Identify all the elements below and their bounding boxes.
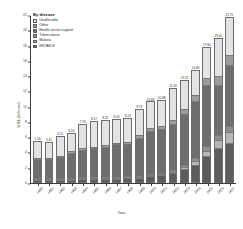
bar-segment[interactable]	[136, 139, 143, 177]
bar-segment[interactable]	[68, 181, 75, 183]
bar-segment[interactable]	[158, 101, 165, 127]
bar-segment[interactable]	[158, 130, 165, 174]
bar-stack[interactable]: 12.40	[169, 88, 178, 183]
bar-segment[interactable]	[181, 170, 188, 182]
bar-stack[interactable]: 13.52	[180, 80, 189, 183]
bar-segment[interactable]	[147, 132, 154, 175]
bar-stack[interactable]: 14.80	[191, 70, 200, 183]
bar-segment[interactable]	[192, 71, 199, 96]
legend-item[interactable]: Malaria	[33, 39, 111, 44]
bar-segment[interactable]	[192, 102, 199, 159]
bar-stack[interactable]: 8.12	[90, 121, 99, 183]
bar-stack[interactable]: 7.76	[78, 124, 87, 183]
bar-segment[interactable]	[46, 160, 53, 179]
bar-segment[interactable]	[147, 102, 154, 129]
bar-segment[interactable]	[57, 158, 64, 179]
bar-segment[interactable]	[170, 89, 177, 121]
bar-segment[interactable]	[136, 110, 143, 137]
bar-segment[interactable]	[57, 137, 64, 156]
bar-segment[interactable]	[215, 141, 222, 149]
bar-group[interactable]: 21.70	[224, 16, 235, 183]
bar-segment[interactable]	[68, 154, 75, 179]
bar-stack[interactable]: 9.73	[135, 109, 144, 183]
bar-segment[interactable]	[34, 142, 41, 160]
bar-segment[interactable]	[46, 181, 53, 182]
bar-segment[interactable]	[34, 181, 41, 182]
bar-segment[interactable]	[68, 134, 75, 152]
bar-segment[interactable]	[215, 149, 222, 182]
bar-stack[interactable]: 8.41	[112, 119, 121, 183]
bar-stack[interactable]: 21.70	[225, 17, 234, 183]
bar-group[interactable]: 12.40	[167, 16, 178, 183]
bar-segment[interactable]	[57, 181, 64, 182]
bar-segment[interactable]	[113, 145, 120, 177]
bar-segment[interactable]	[79, 151, 86, 179]
bar-group[interactable]: 13.52	[179, 16, 190, 183]
bar-segment[interactable]	[226, 56, 233, 66]
bar-group[interactable]: 8.41	[111, 16, 122, 183]
bar-segment[interactable]	[215, 39, 222, 77]
bar-group[interactable]: 10.88	[156, 16, 167, 183]
bar-segment[interactable]	[102, 180, 109, 182]
bar-segment[interactable]	[215, 77, 222, 86]
bar-segment[interactable]	[203, 48, 210, 78]
bar-segment[interactable]	[226, 144, 233, 182]
bar-segment[interactable]	[226, 18, 233, 55]
bar-segment[interactable]	[124, 179, 131, 182]
x-axis-title: Year	[0, 210, 243, 215]
bar-group[interactable]: 14.80	[190, 16, 201, 183]
bar-segment[interactable]	[102, 121, 109, 146]
bar-group[interactable]: 10.68	[145, 16, 156, 183]
bar-segment[interactable]	[158, 176, 165, 182]
bar-stack[interactable]: 8.22	[101, 120, 110, 183]
bar-segment[interactable]	[226, 133, 233, 143]
bar-segment[interactable]	[170, 125, 177, 171]
bar-segment[interactable]	[215, 86, 222, 136]
y-axis-tick-mark	[28, 92, 30, 93]
legend-item[interactable]: HIV/AIDS	[33, 44, 111, 49]
bar-segment[interactable]	[34, 160, 41, 179]
bar-stack[interactable]: 5.42	[45, 142, 54, 183]
bar-segment[interactable]	[203, 79, 210, 86]
x-axis-tick-mark	[72, 184, 73, 186]
bar-segment[interactable]	[113, 120, 120, 144]
bar-segment[interactable]	[203, 157, 210, 182]
bar-stack[interactable]: 17.80	[202, 47, 211, 183]
bar-stack[interactable]: 10.88	[157, 100, 166, 183]
bar-segment[interactable]	[192, 166, 199, 183]
bar-stack[interactable]: 10.68	[146, 101, 155, 183]
bar-group[interactable]: 17.80	[201, 16, 212, 183]
bar-group[interactable]: 9.73	[134, 16, 145, 183]
legend-swatch-icon	[33, 34, 37, 37]
legend-title: By disease	[33, 13, 111, 17]
bar-stack[interactable]: 8.52	[123, 118, 132, 183]
bar-stack[interactable]: 19.00	[214, 38, 223, 183]
bar-segment[interactable]	[79, 180, 86, 182]
y-axis-title: US$ (billions)	[16, 102, 21, 127]
bar-segment[interactable]	[181, 115, 188, 166]
x-axis-tick-mark	[219, 184, 220, 186]
y-axis-tick-mark	[28, 122, 30, 123]
bar-segment[interactable]	[147, 177, 154, 182]
bar-segment[interactable]	[79, 125, 86, 149]
bar-segment[interactable]	[91, 122, 98, 148]
bar-value-label: 6.53	[68, 130, 74, 133]
bar-segment[interactable]	[91, 149, 98, 178]
bar-stack[interactable]: 5.56	[33, 141, 42, 183]
bar-segment[interactable]	[113, 180, 120, 182]
bar-segment[interactable]	[226, 66, 233, 127]
bar-segment[interactable]	[102, 148, 109, 178]
bar-segment[interactable]	[170, 174, 177, 182]
bar-segment[interactable]	[124, 119, 131, 143]
bar-segment[interactable]	[91, 180, 98, 182]
y-axis-tick-mark	[28, 46, 30, 47]
bar-segment[interactable]	[181, 81, 188, 110]
bar-segment[interactable]	[203, 86, 210, 148]
bar-stack[interactable]: 6.53	[67, 133, 76, 183]
bar-group[interactable]: 19.00	[213, 16, 224, 183]
bar-group[interactable]: 8.52	[122, 16, 133, 183]
bar-segment[interactable]	[136, 179, 143, 182]
bar-stack[interactable]: 6.11	[56, 136, 65, 183]
bar-segment[interactable]	[46, 143, 53, 160]
bar-segment[interactable]	[124, 145, 131, 177]
